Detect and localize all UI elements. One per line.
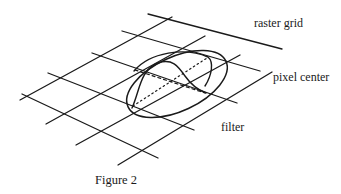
pixel-center-label: pixel center [273,71,329,83]
filter-profile-curve [132,61,206,108]
raster-grid-label: raster grid [254,17,303,29]
grid-line [48,73,194,130]
raster-grid [20,14,282,165]
figure-caption: Figure 2 [95,174,137,187]
filter-label: filter [221,121,244,133]
